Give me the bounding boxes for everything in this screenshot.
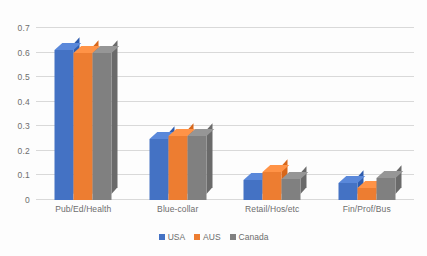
y-axis-tick-label: 0.6 — [2, 48, 30, 58]
bar-front-face — [149, 139, 168, 200]
legend-label: USA — [168, 232, 185, 242]
y-axis-tick-label: 0.4 — [2, 97, 30, 107]
bar-side-face — [395, 165, 401, 194]
legend-swatch-icon — [194, 234, 200, 240]
bar-usa — [55, 50, 74, 200]
bar-aus — [357, 188, 376, 200]
bar-front-face — [282, 179, 301, 200]
bar-front-face — [263, 172, 282, 200]
bar-usa — [338, 183, 357, 200]
y-axis-tick-label: 0.1 — [2, 170, 30, 180]
bar-chart: 00.10.20.30.40.50.60.7 Pub/Ed/HealthBlue… — [0, 0, 427, 256]
bar-aus — [263, 172, 282, 200]
bar-canada — [93, 53, 112, 200]
legend-item-canada[interactable]: Canada — [230, 232, 269, 242]
bar-canada — [376, 178, 395, 200]
chart-legend: USAAUSCanada — [0, 232, 427, 242]
bar-front-face — [74, 53, 93, 200]
bar-aus — [74, 53, 93, 200]
bar-front-face — [168, 136, 187, 200]
bar-front-face — [357, 188, 376, 200]
bar-side-face — [112, 40, 118, 194]
bar-usa — [149, 139, 168, 200]
bar-group — [36, 28, 131, 200]
legend-item-usa[interactable]: USA — [159, 232, 185, 242]
bar-group — [131, 28, 226, 200]
bar-aus — [168, 136, 187, 200]
bar-canada — [282, 179, 301, 200]
legend-label: Canada — [239, 232, 269, 242]
x-axis-category-label: Retail/Hos/etc — [225, 204, 320, 214]
bar-front-face — [376, 178, 395, 200]
legend-label: AUS — [203, 232, 220, 242]
bar-front-face — [338, 183, 357, 200]
bar-side-face — [301, 166, 307, 194]
bar-front-face — [93, 53, 112, 200]
legend-swatch-icon — [159, 234, 165, 240]
bar-front-face — [55, 50, 74, 200]
y-axis-tick-label: 0.3 — [2, 121, 30, 131]
y-axis-tick-label: 0.5 — [2, 72, 30, 82]
x-axis-labels: Pub/Ed/HealthBlue-collarRetail/Hos/etcFi… — [36, 204, 414, 214]
y-axis-tick-label: 0.2 — [2, 146, 30, 156]
bar-front-face — [244, 180, 263, 200]
bar-group — [320, 28, 415, 200]
bar-usa — [244, 180, 263, 200]
x-axis-category-label: Pub/Ed/Health — [36, 204, 131, 214]
x-axis-category-label: Fin/Prof/Bus — [320, 204, 415, 214]
legend-item-aus[interactable]: AUS — [194, 232, 220, 242]
y-axis-tick-label: 0.7 — [2, 23, 30, 33]
bar-canada — [187, 136, 206, 200]
bar-group — [225, 28, 320, 200]
plot-area — [36, 28, 414, 200]
legend-swatch-icon — [230, 234, 236, 240]
bar-groups — [36, 28, 414, 200]
bar-front-face — [187, 136, 206, 200]
x-axis-category-label: Blue-collar — [131, 204, 226, 214]
y-axis-tick-label: 0 — [2, 195, 30, 205]
